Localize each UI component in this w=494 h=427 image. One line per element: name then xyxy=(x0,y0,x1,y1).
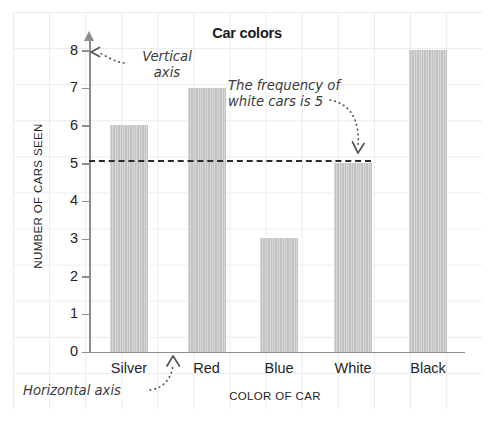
x-axis-line xyxy=(89,352,465,354)
annotation-white-frequency: The frequency of white cars is 5 xyxy=(228,78,378,110)
bar-white[interactable] xyxy=(334,163,372,352)
y-tick-mark xyxy=(82,163,89,165)
chart-page: Car colors 8 7 6 5 4 3 2 1 0 Silve xyxy=(0,0,494,427)
y-tick-mark xyxy=(82,314,89,316)
chart-title: Car colors xyxy=(0,25,494,41)
y-tick-label: 6 xyxy=(38,118,78,133)
y-axis-arrowhead-icon xyxy=(84,31,94,41)
bar-black[interactable] xyxy=(409,50,447,352)
y-tick-label: 5 xyxy=(38,156,78,171)
annotation-white-frequency-line1: The frequency of xyxy=(228,78,378,94)
vertical-axis-leader-icon xyxy=(91,48,124,64)
annotation-vertical-axis-line1: Vertical xyxy=(124,49,210,65)
annotation-vertical-axis-line2: axis xyxy=(124,65,210,81)
x-axis-title: COLOR OF CAR xyxy=(195,390,355,402)
bar-chart-plot: Car colors 8 7 6 5 4 3 2 1 0 Silve xyxy=(0,0,494,427)
annotation-vertical-axis: Vertical axis xyxy=(124,49,210,81)
y-tick-mark xyxy=(82,88,89,90)
y-tick-label: 7 xyxy=(38,80,78,95)
bar-red[interactable] xyxy=(188,88,226,352)
y-axis-title: NUMBER OF CARS SEEN xyxy=(32,96,44,296)
bar-blue[interactable] xyxy=(260,238,298,351)
y-tick-label: 4 xyxy=(38,193,78,208)
y-axis-line xyxy=(89,40,91,353)
reference-line-five xyxy=(89,160,371,162)
y-tick-label: 0 xyxy=(38,344,78,359)
annotation-white-frequency-line2: white cars is 5 xyxy=(228,94,378,110)
y-tick-mark xyxy=(82,276,89,278)
annotation-horizontal-axis: Horizontal axis xyxy=(23,383,163,399)
y-tick-label: 8 xyxy=(38,43,78,58)
y-tick-label: 1 xyxy=(38,306,78,321)
y-tick-label: 3 xyxy=(38,231,78,246)
y-tick-mark xyxy=(82,201,89,203)
x-tick-label-silver: Silver xyxy=(84,360,174,376)
y-tick-mark xyxy=(82,352,89,354)
y-tick-label: 2 xyxy=(38,269,78,284)
y-tick-mark xyxy=(82,50,89,52)
x-tick-label-black: Black xyxy=(383,360,473,376)
y-tick-mark xyxy=(82,125,89,127)
y-tick-mark xyxy=(82,239,89,241)
